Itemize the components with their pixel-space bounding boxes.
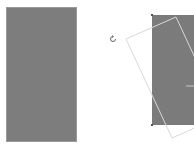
- rotation-preview-outline: [0, 0, 194, 150]
